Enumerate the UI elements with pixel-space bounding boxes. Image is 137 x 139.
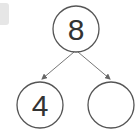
- part-circle-left: 4: [17, 82, 63, 128]
- part-left-value: 4: [32, 89, 49, 122]
- arrow-right: [78, 52, 110, 79]
- number-bond-diagram: 8 4: [0, 0, 137, 139]
- whole-circle: 8: [53, 6, 99, 52]
- whole-value: 8: [68, 13, 85, 46]
- arrow-left: [42, 52, 74, 79]
- part-circle-right[interactable]: [88, 82, 134, 128]
